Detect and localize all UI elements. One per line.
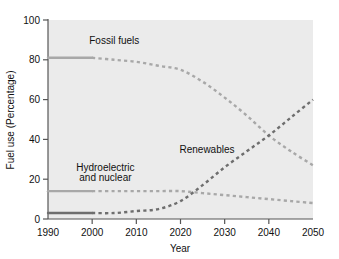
y-axis-title: Fuel use (Percentage)	[5, 71, 16, 170]
x-tick-label: 2000	[81, 227, 104, 238]
series-label: Fossil fuels	[89, 35, 139, 46]
x-axis-title: Year	[170, 243, 191, 254]
chart-figure: 020406080100 199020002010202020302040205…	[0, 0, 339, 259]
x-tick-label: 2040	[258, 227, 281, 238]
x-tick-label: 2050	[302, 227, 325, 238]
y-tick-label: 20	[29, 174, 41, 185]
x-tick-label: 1990	[37, 227, 60, 238]
y-tick-label: 60	[29, 94, 41, 105]
y-tick-label: 100	[23, 15, 40, 26]
y-tick-label: 40	[29, 134, 41, 145]
fuel-use-line-chart: 020406080100 199020002010202020302040205…	[0, 0, 339, 259]
plot-area-background	[48, 20, 313, 219]
series-label: Renewables	[179, 144, 234, 155]
x-tick-label: 2020	[169, 227, 192, 238]
x-tick-label: 2010	[125, 227, 148, 238]
x-tick-label: 2030	[214, 227, 237, 238]
series-label: and nuclear	[79, 172, 132, 183]
y-tick-label: 0	[34, 214, 40, 225]
y-tick-label: 80	[29, 54, 41, 65]
